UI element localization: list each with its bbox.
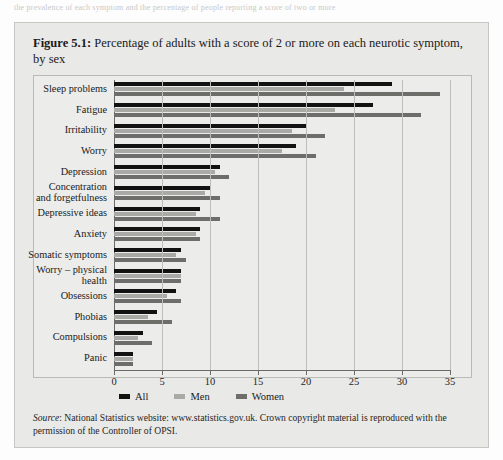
bar-women bbox=[114, 237, 200, 241]
bar-men bbox=[114, 87, 344, 91]
bar-men bbox=[114, 149, 282, 153]
bar-all bbox=[114, 331, 143, 335]
gridline-20 bbox=[306, 80, 307, 370]
page-canvas: the prevalence of each symptom and the p… bbox=[0, 0, 503, 460]
x-tick-label-30: 30 bbox=[387, 376, 417, 387]
x-tick-label-5: 5 bbox=[147, 376, 177, 387]
page-top-text-fragment: the prevalence of each symptom and the p… bbox=[14, 2, 489, 14]
bar-women bbox=[114, 113, 421, 117]
legend-swatch-icon bbox=[174, 394, 185, 399]
bar-women bbox=[114, 217, 220, 221]
category-label: Somatic symptoms bbox=[0, 249, 114, 260]
bar-all bbox=[114, 269, 181, 273]
bar-men bbox=[114, 108, 335, 112]
bar-men bbox=[114, 253, 176, 257]
bar-all bbox=[114, 248, 181, 252]
bar-men bbox=[114, 315, 148, 319]
tick-mark-35 bbox=[450, 371, 451, 375]
tick-mark-30 bbox=[402, 371, 403, 375]
chart-legend: AllMenWomen bbox=[119, 391, 284, 402]
bar-group: Sleep problems bbox=[114, 80, 450, 101]
legend-item: All bbox=[119, 391, 148, 402]
bar-women bbox=[114, 154, 316, 158]
source-text: : National Statistics website: www.stati… bbox=[33, 412, 447, 436]
bar-group: Anxiety bbox=[114, 225, 450, 246]
legend-swatch-icon bbox=[236, 394, 247, 399]
bar-all bbox=[114, 144, 296, 148]
gridline-25 bbox=[354, 80, 355, 370]
category-label: Obsessions bbox=[0, 290, 114, 301]
figure-container: Figure 5.1: Percentage of adults with a … bbox=[14, 22, 489, 448]
gridline-15 bbox=[258, 80, 259, 370]
bar-group: Concentration and forgetfulness bbox=[114, 184, 450, 205]
gridline-5 bbox=[162, 80, 163, 370]
bar-women bbox=[114, 196, 220, 200]
bar-group: Worry – physical health bbox=[114, 266, 450, 287]
x-tick-label-0: 0 bbox=[99, 376, 129, 387]
bar-group: Phobias bbox=[114, 308, 450, 329]
bar-group: Worry bbox=[114, 142, 450, 163]
category-label: Worry – physical health bbox=[0, 264, 114, 286]
plot-area: Sleep problemsFatigueIrritabilityWorryDe… bbox=[33, 75, 472, 378]
category-label: Phobias bbox=[0, 311, 114, 322]
x-tick-label-25: 25 bbox=[339, 376, 369, 387]
bar-group: Fatigue bbox=[114, 101, 450, 122]
bars-region: Sleep problemsFatigueIrritabilityWorryDe… bbox=[114, 80, 450, 370]
category-label: Worry bbox=[0, 145, 114, 156]
gridline-30 bbox=[402, 80, 403, 370]
bar-group: Somatic symptoms bbox=[114, 246, 450, 267]
bar-group: Depression bbox=[114, 163, 450, 184]
tick-mark-20 bbox=[306, 371, 307, 375]
legend-item: Women bbox=[236, 391, 284, 402]
bar-all bbox=[114, 310, 157, 314]
bar-women bbox=[114, 175, 229, 179]
bar-all bbox=[114, 165, 220, 169]
bar-women bbox=[114, 341, 152, 345]
legend-item: Men bbox=[174, 391, 209, 402]
bar-men bbox=[114, 170, 215, 174]
bar-all bbox=[114, 103, 373, 107]
bar-women bbox=[114, 134, 325, 138]
category-label: Fatigue bbox=[0, 104, 114, 115]
category-label: Concentration and forgetfulness bbox=[0, 181, 114, 203]
bar-women bbox=[114, 258, 186, 262]
category-label: Depression bbox=[0, 166, 114, 177]
category-label: Depressive ideas bbox=[0, 207, 114, 218]
bar-men bbox=[114, 274, 181, 278]
bar-group: Obsessions bbox=[114, 287, 450, 308]
bar-men bbox=[114, 294, 167, 298]
x-tick-label-10: 10 bbox=[195, 376, 225, 387]
figure-title: Figure 5.1: Percentage of adults with a … bbox=[33, 35, 473, 67]
bar-men bbox=[114, 232, 196, 236]
figure-title-text: Percentage of adults with a score of 2 o… bbox=[33, 36, 463, 66]
bar-men bbox=[114, 357, 133, 361]
bar-men bbox=[114, 336, 138, 340]
bar-men bbox=[114, 191, 205, 195]
x-tick-label-15: 15 bbox=[243, 376, 273, 387]
category-label: Panic bbox=[0, 352, 114, 363]
gridline-10 bbox=[210, 80, 211, 370]
category-label: Compulsions bbox=[0, 331, 114, 342]
bar-all bbox=[114, 82, 392, 86]
tick-mark-25 bbox=[354, 371, 355, 375]
source-label: Source bbox=[33, 412, 59, 423]
gridline-35 bbox=[450, 80, 451, 370]
bar-group: Irritability bbox=[114, 121, 450, 142]
x-tick-label-35: 35 bbox=[435, 376, 465, 387]
category-label: Irritability bbox=[0, 124, 114, 135]
x-axis-line bbox=[114, 370, 451, 371]
figure-number: Figure 5.1: bbox=[33, 36, 91, 50]
bar-all bbox=[114, 207, 200, 211]
legend-label: Men bbox=[190, 391, 209, 402]
figure-source-note: Source: National Statistics website: www… bbox=[33, 411, 473, 437]
bar-all bbox=[114, 227, 200, 231]
bar-men bbox=[114, 129, 292, 133]
legend-label: All bbox=[135, 391, 148, 402]
tick-mark-15 bbox=[258, 371, 259, 375]
x-tick-label-20: 20 bbox=[291, 376, 321, 387]
tick-mark-5 bbox=[162, 371, 163, 375]
legend-swatch-icon bbox=[119, 394, 130, 399]
tick-mark-0 bbox=[114, 371, 115, 375]
category-label: Anxiety bbox=[0, 228, 114, 239]
bar-women bbox=[114, 279, 181, 283]
